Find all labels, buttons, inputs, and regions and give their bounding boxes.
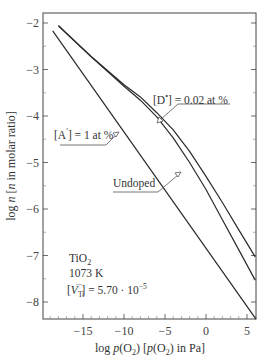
annotation-donor: [D•] = 0.02 at % bbox=[153, 92, 230, 123]
x-axis-title: log p(O2) [p(O2) in Pa] bbox=[95, 341, 205, 357]
y-axis-title: log n [n in molar ratio] bbox=[4, 111, 18, 221]
y-tick-label: −4 bbox=[26, 109, 39, 123]
annotation-acceptor: [A′] = 1 at % bbox=[54, 127, 119, 145]
arrowhead-icon bbox=[175, 172, 181, 177]
x-tick-label: −15 bbox=[74, 324, 93, 338]
svg-text:TiO2: TiO2 bbox=[69, 252, 91, 267]
arrowhead-icon bbox=[113, 132, 119, 137]
series-undoped-line bbox=[58, 26, 255, 280]
x-tick-label: 5 bbox=[244, 324, 250, 338]
y-tick-label: −5 bbox=[26, 156, 39, 170]
chart: −2−3−4−5−6−7−8 −15−10−505 [D•] = 0.02 at… bbox=[0, 0, 272, 362]
x-tick-label: 0 bbox=[203, 324, 209, 338]
x-tick-label: −5 bbox=[159, 324, 172, 338]
y-tick-label: −3 bbox=[26, 63, 39, 77]
svg-text:[VTi′′′′] = 5.70 · 10−5: [VTi′′′′] = 5.70 · 10−5 bbox=[67, 282, 147, 299]
y-axis-ticks: −2−3−4−5−6−7−8 bbox=[26, 16, 256, 309]
y-tick-label: −6 bbox=[26, 202, 39, 216]
y-tick-label: −8 bbox=[26, 295, 39, 309]
svg-text:1073 K: 1073 K bbox=[69, 267, 104, 279]
y-tick-label: −2 bbox=[26, 16, 39, 30]
y-tick-label: −7 bbox=[26, 249, 39, 263]
info-box: TiO2 1073 K [VTi′′′′] = 5.70 · 10−5 bbox=[67, 252, 147, 299]
svg-text:Undoped: Undoped bbox=[113, 177, 155, 190]
series-donor-line bbox=[58, 26, 255, 257]
svg-text:[A′] = 1 at %: [A′] = 1 at % bbox=[54, 127, 114, 141]
annotation-undoped: Undoped bbox=[113, 172, 181, 192]
x-axis-ticks: −15−10−505 bbox=[50, 314, 255, 338]
x-tick-label: −10 bbox=[115, 324, 134, 338]
